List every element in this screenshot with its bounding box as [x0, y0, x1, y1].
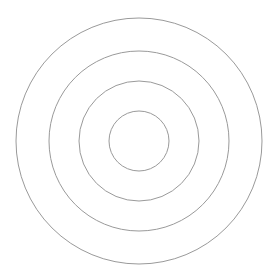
- concentric-circles-diagram: [0, 0, 277, 280]
- background: [0, 0, 277, 280]
